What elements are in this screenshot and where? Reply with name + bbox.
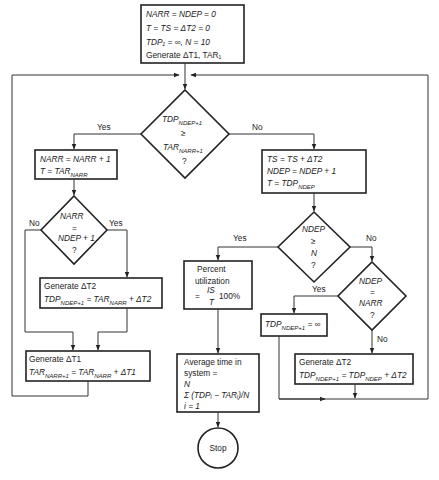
ndep-n-yes-label: Yes: [233, 233, 247, 243]
narr-no-label: No: [29, 218, 40, 228]
svg-text:=: =: [72, 223, 77, 233]
svg-text:100%: 100%: [219, 291, 241, 301]
decision-main: TDPNDEP+1 ≥ TARNARR+1 ?: [141, 90, 229, 178]
start-line-3: TDP₁ = ∞, N = 10: [146, 37, 210, 47]
decision-ndep-narr: NDEP = NARR ?: [338, 262, 406, 330]
ndep-n-yes-arrow: [218, 247, 278, 260]
svg-text:?: ?: [370, 310, 375, 320]
svg-text:Generate ΔT2: Generate ΔT2: [44, 281, 97, 291]
svg-text:=: =: [195, 291, 200, 301]
ndep-narr-yes-label: Yes: [312, 284, 326, 294]
svg-text:=: =: [370, 287, 375, 297]
svg-text:?: ?: [311, 260, 316, 270]
svg-text:NARR: NARR: [60, 211, 84, 221]
avg-time-box: Average time in system = N Σ (TDPᵢ − TAR…: [177, 354, 259, 412]
svg-text:Generate ΔT1: Generate ΔT1: [29, 354, 82, 364]
svg-text:Percent: Percent: [197, 264, 226, 274]
utilization-box: Percent utilization = IS T 100%: [184, 261, 252, 309]
narr-yes-label: Yes: [109, 218, 123, 228]
svg-text:?: ?: [182, 156, 187, 166]
svg-text:NDEP: NDEP: [359, 276, 383, 286]
svg-text:IS: IS: [207, 285, 215, 295]
svg-text:system =: system =: [184, 368, 218, 378]
gen-dt2-left-box: Generate ΔT2 TDPNDEP+1 = TARNARR + ΔT2: [40, 278, 162, 308]
gen-dt2-right-box: Generate ΔT2 TDPNDEP+1 = TDPNDEP + ΔT2: [295, 354, 413, 384]
svg-text:i = 1: i = 1: [184, 401, 200, 411]
main-no-arrow: [229, 134, 314, 149]
start-box: NARR = NDEP = 0 T = TS = ΔT2 = 0 TDP₁ = …: [141, 5, 244, 63]
svg-text:NDEP: NDEP: [302, 224, 326, 234]
narr-yes-arrow: [107, 230, 127, 277]
gen-dt1-box: Generate ΔT1 TARNARR+1 = TARNARR + ΔT1: [26, 351, 150, 381]
gen-dt2-left-to-dt1-arrow: [98, 308, 127, 350]
svg-text:Average time in: Average time in: [184, 357, 242, 367]
svg-text:N: N: [184, 379, 190, 389]
start-line-4: Generate ΔT1, TAR₁: [146, 50, 222, 60]
main-yes-label: Yes: [97, 122, 111, 132]
ndep-narr-yes-arrow: [294, 296, 338, 313]
svg-text:Generate ΔT2: Generate ΔT2: [299, 357, 352, 367]
svg-text:NARR: NARR: [359, 298, 383, 308]
svg-text:TS = TS + ΔT2: TS = TS + ΔT2: [267, 154, 323, 164]
tdp-inf-box: TDPNDEP+1 = ∞: [261, 314, 327, 336]
svg-text:N: N: [311, 248, 317, 258]
svg-text:≥: ≥: [181, 128, 186, 138]
svg-text:NARR = NARR + 1: NARR = NARR + 1: [40, 154, 111, 164]
ndep-n-no-arrow: [350, 247, 372, 261]
arrival-box: NARR = NARR + 1 T = TARNARR: [35, 150, 117, 179]
ndep-n-no-label: No: [366, 233, 377, 243]
flowchart: NARR = NDEP = 0 T = TS = ΔT2 = 0 TDP₁ = …: [0, 0, 439, 480]
main-no-label: No: [252, 122, 263, 132]
departure-box: TS = TS + ΔT2 NDEP = NDEP + 1 T = TDPNDE…: [262, 150, 366, 193]
start-line-2: T = TS = ΔT2 = 0: [146, 23, 210, 33]
stop-terminal: Stop: [198, 428, 238, 468]
ndep-narr-no-label: No: [377, 334, 388, 344]
svg-text:NDEP = NDEP + 1: NDEP = NDEP + 1: [267, 166, 336, 176]
decision-narr-ndep: NARR = NDEP + 1 ?: [41, 196, 107, 264]
svg-text:NDEP + 1: NDEP + 1: [58, 233, 95, 243]
decision-ndep-n: NDEP ≥ N ?: [278, 212, 350, 282]
start-line-1: NARR = NDEP = 0: [146, 9, 216, 19]
main-yes-arrow: [74, 134, 141, 149]
svg-text:Σ (TDPᵢ − TARᵢ)/N: Σ (TDPᵢ − TARᵢ)/N: [183, 390, 249, 400]
svg-text:Stop: Stop: [209, 443, 226, 453]
svg-text:≥: ≥: [311, 236, 316, 246]
svg-text:?: ?: [72, 245, 77, 255]
